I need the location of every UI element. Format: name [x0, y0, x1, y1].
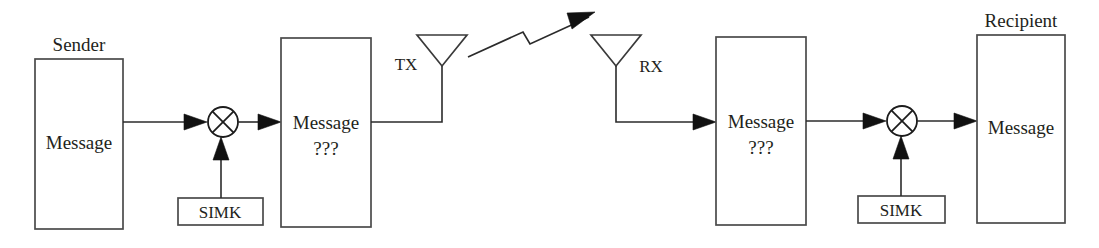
sender-caption: Sender: [53, 35, 106, 54]
recipient-simk-label: SIMK: [880, 202, 923, 219]
sender-simk-label: SIMK: [199, 204, 242, 221]
recipient-simk-feed-arrowhead: [893, 136, 909, 159]
encoded-rx-line1: Message: [728, 112, 794, 131]
encoded-tx-line2: ???: [313, 139, 338, 158]
encoded-tx-line1: Message: [293, 113, 359, 132]
rx-antenna-label: RX: [639, 58, 663, 75]
block-diagram-canvas: Sender Message SIMK Message ??? TX RX Me…: [0, 0, 1099, 248]
encoded-rx-to-mixer-arrowhead: [863, 113, 886, 129]
recipient-caption: Recipient: [985, 11, 1058, 30]
diagram-vector-layer: [0, 0, 1099, 248]
radio-link-arrowhead: [567, 12, 595, 29]
tx-antenna-label: TX: [395, 56, 418, 73]
tx-antenna-icon: [417, 35, 467, 66]
encoded-tx-to-antenna-line: [371, 66, 442, 122]
rx-antenna-icon: [591, 35, 641, 66]
recipient-message-label: Message: [988, 118, 1054, 137]
encoded-tx-box: [281, 38, 371, 227]
sender-to-mixer-arrowhead: [184, 114, 207, 130]
recipient-mixer-to-box-arrowhead: [954, 113, 977, 129]
sender-simk-feed-arrowhead: [213, 137, 229, 160]
sender-mixer-to-encoded-arrowhead: [258, 114, 281, 130]
encoded-rx-line2: ???: [748, 138, 773, 157]
rx-antenna-to-encoded-arrowhead: [693, 114, 716, 130]
sender-message-label: Message: [46, 133, 112, 152]
